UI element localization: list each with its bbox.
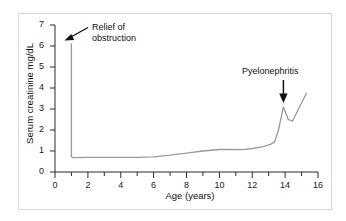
annotation-relief-line2: obstruction <box>92 33 136 44</box>
y-tick-label-0: 0 <box>30 167 44 176</box>
x-tick-label-12: 12 <box>244 181 260 190</box>
x-tick-label-4: 4 <box>113 181 129 190</box>
y-axis-title: Serum creatinine mg/dL <box>24 29 35 159</box>
y-axis-ticks <box>50 25 55 172</box>
annotation-pyelonephritis-line1: Pyelonephritis <box>242 66 299 77</box>
annotation-pyelonephritis: Pyelonephritis <box>242 66 299 77</box>
x-tick-label-10: 10 <box>211 181 227 190</box>
x-tick-label-16: 16 <box>310 181 326 190</box>
x-tick-label-0: 0 <box>47 181 63 190</box>
x-axis-major-ticks <box>55 172 318 178</box>
relief-of-obstruction-arrow <box>65 28 89 41</box>
x-tick-label-2: 2 <box>80 181 96 190</box>
chart-figure: 7 6 5 4 3 2 1 0 0 2 4 6 8 10 12 14 16 Se… <box>0 0 346 221</box>
x-tick-label-14: 14 <box>277 181 293 190</box>
x-tick-label-8: 8 <box>179 181 195 190</box>
annotation-relief-line1: Relief of <box>92 22 136 33</box>
data-series-serum-creatinine <box>71 44 306 158</box>
annotation-relief-of-obstruction: Relief of obstruction <box>92 22 136 44</box>
pyelonephritis-arrow <box>279 80 287 103</box>
axis-lines <box>55 25 318 172</box>
x-tick-label-6: 6 <box>146 181 162 190</box>
x-axis-title: Age (years) <box>120 190 260 201</box>
